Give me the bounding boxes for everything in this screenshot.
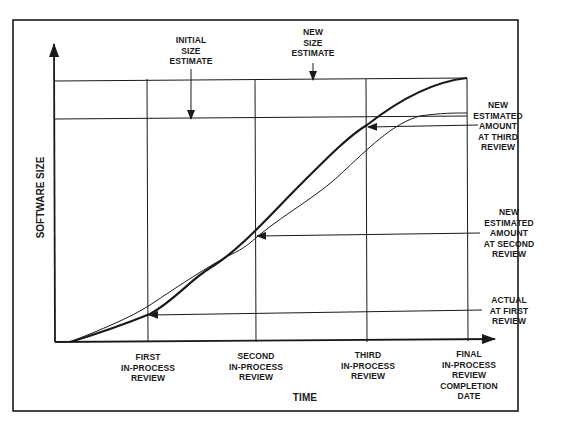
third-review-label: NEW ESTIMATED AMOUNT AT THIRD REVIEW xyxy=(468,100,528,153)
x-tick-first-review: FIRST IN-PROCESS REVIEW xyxy=(113,352,183,384)
y-axis xyxy=(54,44,55,342)
x-tick-third-review: THIRD IN-PROCESS REVIEW xyxy=(333,350,403,382)
first-review-arrow xyxy=(149,310,482,315)
curve-estimate-thin xyxy=(70,113,467,342)
third-review-arrow xyxy=(368,125,478,127)
y-axis-title: SOFTWARE SIZE xyxy=(35,148,46,248)
first-review-label: ACTUAL AT FIRST REVIEW xyxy=(484,295,534,327)
x-tick-final-review: FINAL IN-PROCESS REVIEW COMPLETION DATE xyxy=(433,349,505,402)
x-axis-title: TIME xyxy=(285,393,325,404)
second-review-arrow xyxy=(257,233,480,236)
initial-size-estimate-line xyxy=(55,116,467,119)
second-review-label: NEW ESTIMATED AMOUNT AT SECOND REVIEW xyxy=(481,207,537,260)
initial-size-estimate-label: INITIAL SIZE ESTIMATE xyxy=(160,35,222,67)
new-size-estimate-label: NEW SIZE ESTIMATE xyxy=(282,27,344,59)
gridline-second-review xyxy=(255,79,256,342)
new-size-estimate-line xyxy=(55,78,467,81)
x-tick-second-review: SECOND IN-PROCESS REVIEW xyxy=(221,351,291,383)
x-axis xyxy=(55,339,495,342)
gridline-third-review xyxy=(366,79,367,342)
